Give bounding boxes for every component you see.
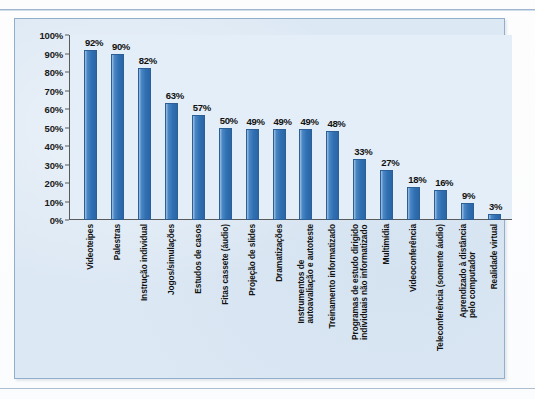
x-axis-category-label: Instrução individual — [140, 224, 149, 301]
bar-value-label: 49% — [274, 116, 292, 127]
bar-group[interactable]: 49%Instrumentos de autoavaliação e autot… — [293, 129, 320, 220]
bar[interactable]: 49% — [299, 129, 312, 220]
bar[interactable]: 50% — [219, 128, 232, 221]
y-axis-tick-mark — [65, 220, 69, 221]
bar-value-label: 63% — [166, 90, 184, 101]
y-axis-tick-mark — [65, 164, 69, 165]
x-axis-category-label: Multimídia — [382, 224, 391, 264]
x-axis-category-label: Jogos/simulações — [167, 224, 176, 295]
y-axis-tick-label: 30% — [17, 159, 69, 170]
x-axis-category-label: Palestras — [113, 224, 122, 260]
bar-group[interactable]: 27%Multimídia — [373, 170, 400, 220]
bar-value-label: 49% — [300, 116, 318, 127]
x-axis-category-label: Treinamento informatizado — [328, 224, 337, 329]
x-axis-category-label: Videoconferência — [409, 224, 418, 292]
bar-value-label: 82% — [139, 55, 157, 66]
bar[interactable]: 27% — [380, 170, 393, 220]
bar-value-label: 9% — [462, 190, 475, 201]
bar-group[interactable]: 92%Videoteipes — [77, 50, 104, 220]
y-axis-tick-mark — [65, 146, 69, 147]
bar[interactable]: 63% — [165, 103, 178, 220]
y-axis-tick-mark — [65, 109, 69, 110]
x-axis-category-label: Realidade virtual — [490, 224, 499, 289]
bar[interactable]: 57% — [192, 115, 205, 220]
x-axis-category-label: Programas de estudo dirigido individuais… — [351, 224, 369, 340]
y-axis-tick-label: 90% — [17, 48, 69, 59]
bar-group[interactable]: 63%Jogos/simulações — [158, 103, 185, 220]
y-axis-tick-label: 80% — [17, 67, 69, 78]
bar-group[interactable]: 57%Estudos de casos — [185, 115, 212, 220]
x-axis-category-label: Aprendizado à distância pelo computador — [459, 224, 477, 318]
bar-group[interactable]: 18%Videoconferência — [400, 187, 427, 220]
bar-group[interactable]: 3%Realidade virtual — [481, 214, 508, 220]
bar-group[interactable]: 49%Dramatizações — [266, 129, 293, 220]
y-axis-tick-label: 100% — [17, 30, 69, 41]
bar-value-label: 3% — [489, 201, 502, 212]
y-axis-tick-mark — [65, 183, 69, 184]
x-axis-category-label: Fitas cassete (áudio) — [221, 224, 230, 305]
bar-value-label: 16% — [435, 177, 453, 188]
y-axis-tick-mark — [65, 72, 69, 73]
bar-value-label: 48% — [327, 118, 345, 129]
bar[interactable]: 3% — [488, 214, 501, 220]
bar-group[interactable]: 50%Fitas cassete (áudio) — [212, 128, 239, 221]
bar[interactable]: 18% — [407, 187, 420, 220]
bar-group[interactable]: 82%Instrução individual — [131, 68, 158, 220]
bar-value-label: 90% — [112, 41, 130, 52]
bar-group[interactable]: 90%Palestras — [104, 54, 131, 221]
bar[interactable]: 16% — [434, 190, 447, 220]
x-axis-category-label: Dramatizações — [275, 224, 284, 282]
bar[interactable]: 49% — [273, 129, 286, 220]
bar[interactable]: 90% — [111, 54, 124, 221]
bar-value-label: 57% — [193, 102, 211, 113]
y-axis-tick-mark — [65, 90, 69, 91]
bar-group[interactable]: 16%Teleconferência (somente áudio) — [427, 190, 454, 220]
bar-group[interactable]: 49%Projeção de slides — [239, 129, 266, 220]
y-axis-tick-mark — [65, 201, 69, 202]
bar[interactable]: 82% — [138, 68, 151, 220]
bar[interactable]: 92% — [84, 50, 97, 220]
bar-group[interactable]: 9%Aprendizado à distância pelo computado… — [454, 203, 481, 220]
plot-area: 100%90%80%70%60%50%40%30%20%10%0% 92%Vid… — [69, 35, 512, 220]
x-axis-category-label: Estudos de casos — [194, 224, 203, 294]
bar[interactable]: 48% — [326, 131, 339, 220]
bar-value-label: 50% — [220, 115, 238, 126]
y-axis-tick-label: 10% — [17, 196, 69, 207]
y-axis-tick-mark — [65, 53, 69, 54]
y-axis-tick-mark — [65, 127, 69, 128]
page-top-rule-secondary — [0, 10, 535, 11]
x-axis-category-label: Teleconferência (somente áudio) — [436, 224, 445, 351]
bar-group[interactable]: 48%Treinamento informatizado — [319, 131, 346, 220]
bar[interactable]: 33% — [353, 159, 366, 220]
x-axis-category-label: Instrumentos de autoavaliação e autotest… — [297, 224, 315, 323]
y-axis-tick-label: 0% — [17, 215, 69, 226]
bar-value-label: 27% — [381, 157, 399, 168]
page-bottom-rule — [0, 388, 535, 389]
bar[interactable]: 49% — [246, 129, 259, 220]
y-axis-tick-mark — [65, 35, 69, 36]
y-axis-tick-label: 20% — [17, 178, 69, 189]
x-axis-category-label: Videoteipes — [86, 224, 95, 270]
bar-value-label: 18% — [408, 174, 426, 185]
y-axis-tick-label: 60% — [17, 104, 69, 115]
x-axis-category-label: Projeção de slides — [248, 224, 257, 296]
bar[interactable]: 9% — [461, 203, 474, 220]
scanned-page: 100%90%80%70%60%50%40%30%20%10%0% 92%Vid… — [0, 0, 535, 399]
bar-value-label: 33% — [354, 146, 372, 157]
bar-group[interactable]: 33%Programas de estudo dirigido individu… — [346, 159, 373, 220]
y-axis-tick-label: 40% — [17, 141, 69, 152]
y-axis-tick-label: 70% — [17, 85, 69, 96]
y-axis-tick-label: 50% — [17, 122, 69, 133]
chart-panel: 100%90%80%70%60%50%40%30%20%10%0% 92%Vid… — [14, 18, 505, 379]
bar-value-label: 49% — [247, 116, 265, 127]
bar-value-label: 92% — [85, 37, 103, 48]
